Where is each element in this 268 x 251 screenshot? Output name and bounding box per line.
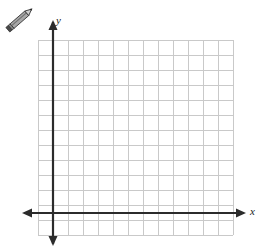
grid-lines — [38, 40, 234, 236]
coordinate-grid — [0, 0, 268, 251]
y-axis-label: y — [56, 15, 61, 26]
x-axis-label: x — [250, 206, 255, 217]
x-axis-arrow-left — [22, 209, 32, 218]
figure-canvas: y x — [0, 0, 268, 251]
x-axis-arrow-right — [236, 209, 246, 218]
y-axis-arrow-down — [49, 236, 58, 246]
x-axis — [22, 209, 246, 218]
